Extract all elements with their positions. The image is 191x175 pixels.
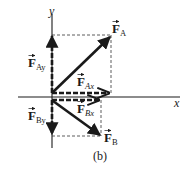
- label-FB: FB: [104, 130, 118, 147]
- svg-text:FB: FB: [104, 130, 118, 147]
- svg-text:FAy: FAy: [28, 55, 46, 72]
- y-axis-label: y: [48, 4, 55, 18]
- figure-caption: (b): [93, 149, 107, 163]
- label-FAx: FAx: [77, 74, 94, 91]
- svg-text:FBx: FBx: [77, 101, 94, 118]
- svg-text:FA: FA: [112, 21, 127, 38]
- label-FBy: FBy: [28, 108, 47, 125]
- label-FA: FA: [112, 21, 127, 38]
- svg-text:FAx: FAx: [77, 74, 94, 91]
- x-axis-label: x: [173, 96, 180, 110]
- label-FBx: FBx: [77, 101, 94, 118]
- svg-text:FBy: FBy: [28, 108, 47, 125]
- label-FAy: FAy: [28, 55, 46, 72]
- vector-diagram: y x FA FAy FAx FBx FBy FB (b): [0, 0, 191, 175]
